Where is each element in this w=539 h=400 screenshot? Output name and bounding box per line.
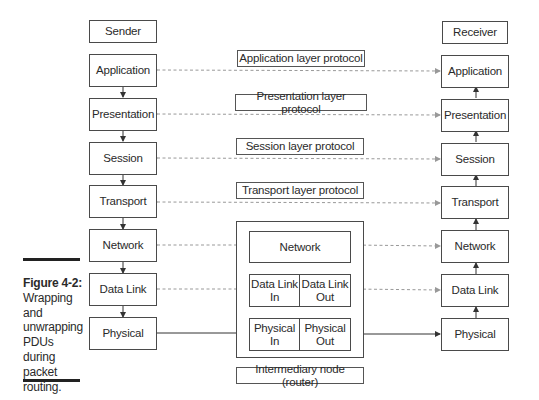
sender-layer-session: Session [89,142,157,175]
protocol-label-transport: Transport layer protocol [236,182,364,199]
router-label: Intermediary node (router) [236,367,364,384]
caption-bottom-rule [23,379,80,382]
protocol-label-session: Session layer protocol [236,138,364,155]
sender-layer-network: Network [89,229,157,262]
receiver-title: Receiver [442,21,508,44]
router-datalink-out: Data Link Out [299,274,351,307]
sender-layer-datalink: Data Link [89,273,157,306]
protocol-label-presentation: Presentation layer protocol [235,94,367,111]
sender-layer-application: Application [89,54,157,87]
router-network: Network [249,231,351,263]
receiver-layer-datalink: Data Link [441,274,509,307]
receiver-layer-network: Network [441,230,509,263]
receiver-layer-presentation: Presentation [441,99,509,132]
figure-number: Figure 4-2: [23,276,83,291]
router-physical-out: Physical Out [299,318,351,351]
caption-top-rule [23,258,80,261]
sender-layer-presentation: Presentation [89,98,157,131]
sender-layer-transport: Transport [89,185,157,218]
sender-layer-physical: Physical [89,317,157,350]
receiver-layer-physical: Physical [441,318,509,351]
figure-caption: Figure 4-2: Wrapping and unwrapping PDUs… [23,276,83,394]
receiver-layer-session: Session [441,143,509,176]
router-datalink-in: Data Link In [249,274,300,307]
receiver-layer-transport: Transport [441,186,509,219]
protocol-label-application: Application layer protocol [237,50,365,67]
receiver-layer-application: Application [441,55,509,88]
sender-title: Sender [89,20,157,43]
router-physical-in: Physical In [249,318,300,351]
